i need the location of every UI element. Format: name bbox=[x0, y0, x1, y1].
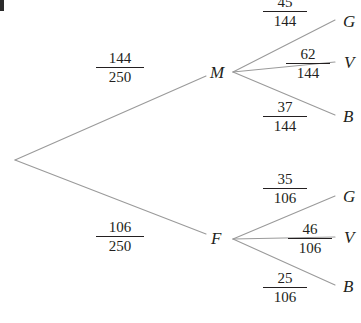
fraction-bar bbox=[263, 188, 307, 189]
probability-label-f-to-b: 25 106 bbox=[263, 270, 307, 305]
fraction-numerator: 37 bbox=[263, 99, 307, 115]
fraction-denominator: 106 bbox=[263, 289, 307, 305]
fraction-bar bbox=[96, 236, 144, 237]
leaf-label-f-b: B bbox=[343, 278, 353, 295]
probability-label-m-to-g: 45 144 bbox=[263, 0, 307, 29]
fraction-numerator: 144 bbox=[96, 50, 144, 66]
fraction-numerator: 45 bbox=[263, 0, 307, 10]
fraction-denominator: 144 bbox=[263, 118, 307, 134]
fraction-denominator: 144 bbox=[286, 65, 330, 81]
node-label-m: M bbox=[210, 64, 224, 81]
leaf-label-m-g: G bbox=[343, 13, 355, 30]
probability-label-m-to-b: 37 144 bbox=[263, 99, 307, 134]
fraction-bar bbox=[263, 116, 307, 117]
fraction-bar bbox=[263, 287, 307, 288]
fraction-denominator: 250 bbox=[96, 238, 144, 254]
probability-label-f-to-v: 46 106 bbox=[288, 221, 332, 256]
fraction-denominator: 106 bbox=[288, 240, 332, 256]
probability-label-f-to-g: 35 106 bbox=[263, 171, 307, 206]
leaf-label-m-v: V bbox=[344, 54, 354, 71]
leaf-label-f-v: V bbox=[344, 229, 354, 246]
fraction-bar bbox=[286, 63, 330, 64]
fraction-numerator: 106 bbox=[96, 219, 144, 235]
probability-label-m-to-v: 62 144 bbox=[286, 46, 330, 81]
probability-label-root-to-m: 144 250 bbox=[96, 50, 144, 85]
fraction-denominator: 106 bbox=[263, 190, 307, 206]
fraction-denominator: 250 bbox=[96, 69, 144, 85]
leaf-label-m-b: B bbox=[343, 108, 353, 125]
probability-tree-diagram: M F 144 250 106 250 45 144 62 144 37 144… bbox=[0, 0, 361, 323]
fraction-numerator: 25 bbox=[263, 270, 307, 286]
leaf-label-f-g: G bbox=[343, 188, 355, 205]
fraction-numerator: 62 bbox=[286, 46, 330, 62]
probability-label-root-to-f: 106 250 bbox=[96, 219, 144, 254]
fraction-numerator: 46 bbox=[288, 221, 332, 237]
fraction-numerator: 35 bbox=[263, 171, 307, 187]
fraction-denominator: 144 bbox=[263, 13, 307, 29]
fraction-bar bbox=[263, 11, 307, 12]
node-label-f: F bbox=[211, 230, 221, 247]
fraction-bar bbox=[288, 238, 332, 239]
branch-root-to-m bbox=[15, 76, 206, 160]
fraction-bar bbox=[96, 67, 144, 68]
